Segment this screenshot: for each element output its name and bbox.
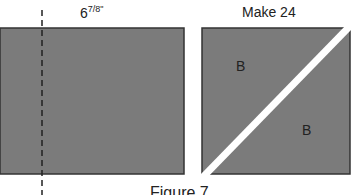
diagram-canvas: [0, 0, 352, 195]
piece-label-top: B: [236, 58, 245, 74]
figure-caption: Figure 7: [150, 184, 209, 195]
piece-label-bottom: B: [302, 122, 311, 138]
left-fabric-square: [0, 28, 184, 174]
